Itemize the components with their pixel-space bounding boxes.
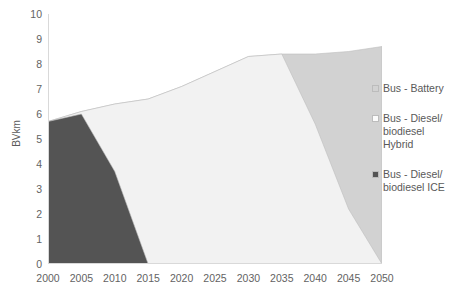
legend-item[interactable]: Bus - Diesel/ biodiesel Hybrid: [372, 112, 461, 151]
legend-item-label: Bus - Battery: [383, 82, 444, 95]
legend-swatch-hybrid: [372, 115, 379, 122]
plot-svg: [48, 14, 382, 264]
y-axis-tick-label: 10: [20, 9, 42, 19]
chart-legend: Bus - BatteryBus - Diesel/ biodiesel Hyb…: [372, 82, 461, 211]
legend-swatch-ice: [372, 171, 379, 178]
y-axis-tick-label: 2: [20, 209, 42, 219]
y-axis-tick-label: 6: [20, 109, 42, 119]
plot-area: [48, 14, 382, 264]
legend-item-label: Bus - Diesel/ biodiesel ICE: [383, 168, 445, 194]
x-axis-tick-labels: 2000200520102015202020252030203520402045…: [0, 272, 461, 292]
legend-item-label: Bus - Diesel/ biodiesel Hybrid: [383, 112, 443, 151]
y-axis-tick-label: 0: [20, 259, 42, 269]
legend-swatch-battery: [372, 85, 379, 92]
y-axis-tick-label: 5: [20, 134, 42, 144]
stacked-area-chart: BVkm 012345678910 2000200520102015202020…: [0, 0, 461, 306]
legend-item[interactable]: Bus - Battery: [372, 82, 461, 95]
y-axis-tick-labels: 012345678910: [18, 0, 42, 306]
x-axis-tick-label: 2050: [362, 272, 402, 284]
y-axis-tick-label: 3: [20, 184, 42, 194]
area-series-group: [48, 47, 382, 265]
y-axis-tick-label: 1: [20, 234, 42, 244]
y-axis-tick-label: 7: [20, 84, 42, 94]
y-axis-tick-label: 4: [20, 159, 42, 169]
y-axis-tick-label: 9: [20, 34, 42, 44]
y-axis-tick-label: 8: [20, 59, 42, 69]
legend-item[interactable]: Bus - Diesel/ biodiesel ICE: [372, 168, 461, 194]
